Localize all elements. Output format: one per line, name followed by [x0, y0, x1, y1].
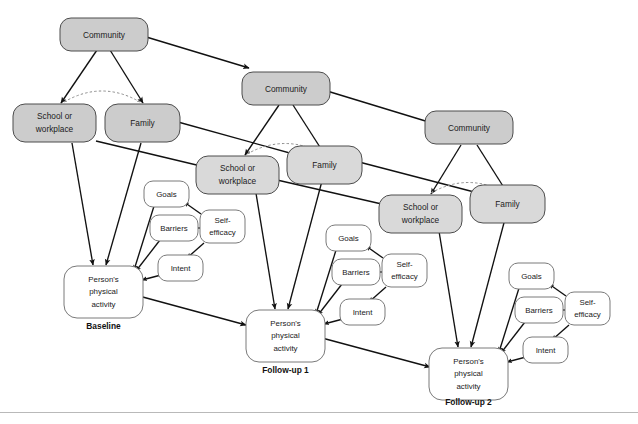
node-label-line1: Self-: [214, 216, 231, 225]
node-community-baseline[interactable]: Community: [60, 18, 148, 51]
wave-label-baseline: Baseline: [86, 321, 121, 331]
edge-intent-activity: [324, 319, 343, 324]
node-label: Community: [448, 123, 491, 133]
edge-community-school: [431, 145, 461, 194]
node-school-baseline[interactable]: School or workplace: [13, 104, 96, 142]
node-label-line1: Person's: [88, 275, 119, 284]
edge-school-activity: [72, 143, 93, 265]
node-shape: [379, 195, 462, 233]
node-community-followup2[interactable]: Community: [425, 111, 513, 144]
node-shape: [13, 104, 96, 142]
edge-intent-activity: [507, 357, 526, 362]
node-self-efficacy-followup1[interactable]: Self- efficacy: [382, 254, 427, 287]
node-activity-baseline[interactable]: Person's physical activity: [64, 266, 143, 318]
node-shape: [196, 156, 279, 194]
edge-community1-community2: [143, 36, 249, 68]
edge-intent-activity: [142, 275, 161, 280]
edge-family-activity: [471, 219, 505, 347]
node-intent-followup2[interactable]: Intent: [523, 337, 568, 363]
node-label-line1: School or: [403, 202, 438, 212]
node-label: Family: [495, 199, 520, 209]
node-label: Barriers: [342, 268, 370, 277]
edge-barriers-activity: [501, 322, 525, 353]
node-label: Goals: [156, 190, 177, 199]
node-label: Intent: [353, 308, 374, 317]
node-barriers-baseline[interactable]: Barriers: [150, 215, 198, 241]
node-label-line2: physical: [271, 331, 300, 340]
edge-barriers-activity: [136, 240, 160, 271]
node-family-baseline[interactable]: Family: [105, 104, 180, 142]
node-shape: [382, 254, 427, 287]
node-label-line2: efficacy: [574, 310, 601, 319]
followup1-inner-edges: [245, 105, 386, 324]
node-label: Goals: [338, 234, 359, 243]
node-barriers-followup2[interactable]: Barriers: [515, 297, 563, 323]
edge-community2-community3: [327, 91, 432, 123]
edge-school-family-dashed: [64, 91, 140, 102]
node-label-line1: Person's: [270, 319, 301, 328]
node-goals-baseline[interactable]: Goals: [144, 181, 189, 207]
node-family-followup1[interactable]: Family: [287, 146, 362, 184]
edge-activity2-activity3: [322, 338, 430, 367]
edge-family-activity: [288, 181, 322, 309]
edge-family1-family2: [178, 122, 297, 155]
node-label: Intent: [171, 264, 192, 273]
figure-canvas: Community School or workplace Family Goa…: [0, 0, 638, 424]
node-label-line1: School or: [220, 163, 255, 173]
edge-school-activity: [254, 181, 275, 309]
node-shape: [200, 210, 245, 243]
node-goals-followup1[interactable]: Goals: [326, 225, 371, 251]
node-label: Family: [312, 160, 337, 170]
node-intent-baseline[interactable]: Intent: [158, 255, 203, 281]
edge-community-school: [61, 50, 97, 103]
node-label: Family: [130, 118, 155, 128]
node-label: Intent: [536, 346, 557, 355]
node-label-line3: activity: [456, 382, 480, 391]
baseline-inner-edges: [61, 50, 204, 280]
node-label-line2: workplace: [401, 215, 440, 225]
node-intent-followup1[interactable]: Intent: [340, 299, 385, 325]
node-label-line2: efficacy: [209, 228, 236, 237]
node-label-line2: workplace: [218, 176, 257, 186]
node-label: Community: [83, 30, 126, 40]
node-self-efficacy-baseline[interactable]: Self- efficacy: [200, 210, 245, 243]
node-label-line1: Person's: [453, 357, 484, 366]
followup2-inner-edges: [431, 145, 569, 362]
node-label-line2: physical: [454, 369, 483, 378]
node-activity-followup1[interactable]: Person's physical activity: [246, 310, 325, 362]
node-goals-followup2[interactable]: Goals: [509, 263, 554, 289]
node-label-line2: physical: [89, 287, 118, 296]
node-label-line1: Self-: [579, 298, 596, 307]
node-label-line3: activity: [91, 300, 115, 309]
edge-family2-family3: [359, 162, 478, 193]
node-shape: [565, 292, 610, 325]
node-barriers-followup1[interactable]: Barriers: [332, 259, 380, 285]
node-label-line1: School or: [37, 111, 72, 121]
node-activity-followup2[interactable]: Person's physical activity: [429, 348, 508, 400]
edge-school-activity: [437, 219, 458, 347]
node-self-efficacy-followup2[interactable]: Self- efficacy: [565, 292, 610, 325]
node-label: Community: [265, 84, 308, 94]
node-family-followup2[interactable]: Family: [470, 185, 545, 223]
node-label-line2: efficacy: [391, 272, 418, 281]
node-label-line1: Self-: [396, 260, 413, 269]
wave-label-followup1: Follow-up 1: [262, 365, 309, 375]
edge-activity1-activity2: [139, 296, 246, 325]
node-label-line3: activity: [273, 344, 297, 353]
path-diagram-svg: Community School or workplace Family Goa…: [0, 0, 638, 424]
node-school-followup1[interactable]: School or workplace: [196, 156, 279, 194]
edge-community-school: [245, 105, 279, 155]
node-label-line2: workplace: [35, 124, 74, 134]
edge-school1-school2: [96, 141, 205, 167]
edge-family-activity: [106, 143, 141, 265]
node-community-followup1[interactable]: Community: [242, 72, 330, 105]
edge-barriers-activity: [318, 284, 342, 315]
node-label: Barriers: [160, 224, 188, 233]
wave-label-followup2: Follow-up 2: [445, 397, 492, 407]
node-label: Goals: [521, 272, 542, 281]
node-school-followup2[interactable]: School or workplace: [379, 195, 462, 233]
node-label: Barriers: [525, 306, 553, 315]
